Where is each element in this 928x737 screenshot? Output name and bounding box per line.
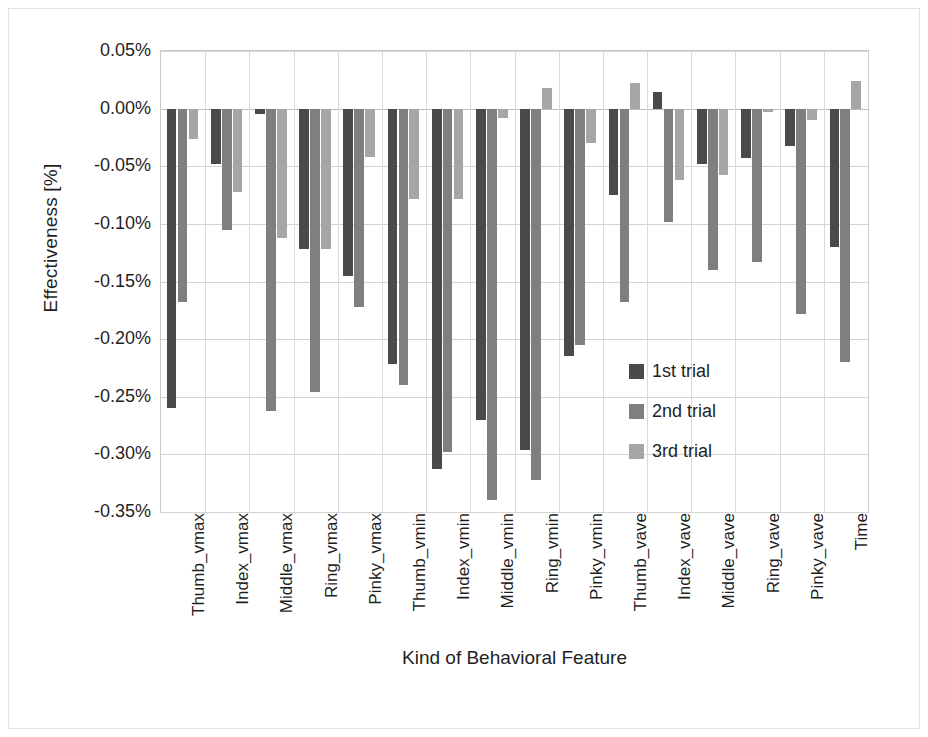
y-axis-tick-labels: 0.05%0.00%-0.05%-0.10%-0.15%-0.20%-0.25%… <box>43 50 151 520</box>
y-axis-tick-label: 0.00% <box>43 99 151 117</box>
bar <box>321 109 331 250</box>
x-axis-title: Kind of Behavioral Feature <box>160 647 869 669</box>
bar <box>609 109 619 195</box>
legend-item: 2nd trial <box>629 391 799 431</box>
bar <box>233 109 243 192</box>
bar <box>586 109 596 144</box>
legend-swatch-icon <box>629 364 644 379</box>
legend-item: 3rd trial <box>629 431 799 471</box>
legend-label: 3rd trial <box>652 441 712 462</box>
bar <box>830 109 840 247</box>
bar <box>664 109 674 222</box>
x-axis-tick-label: Pinky_vave <box>809 513 826 643</box>
legend-label: 2nd trial <box>652 401 716 422</box>
bar <box>211 109 221 164</box>
bar <box>343 109 353 276</box>
bar <box>167 109 177 409</box>
x-axis-tick-label: Ring_vave <box>765 513 782 643</box>
x-axis-tick-label: Time <box>853 513 870 643</box>
bar <box>675 109 685 180</box>
bar <box>255 109 265 115</box>
chart-legend: 1st trial2nd trial3rd trial <box>629 351 799 471</box>
bar <box>564 109 574 357</box>
bar <box>365 109 375 157</box>
y-axis-tick-label: -0.15% <box>43 272 151 290</box>
bar <box>487 109 497 501</box>
y-axis-tick-label: 0.05% <box>43 41 151 59</box>
legend-swatch-icon <box>629 444 644 459</box>
x-axis-tick-label: Middle_vmax <box>278 513 295 643</box>
x-axis-tick-label: Middle_vmin <box>499 513 516 643</box>
bar <box>409 109 419 199</box>
bar <box>697 109 707 164</box>
plot-area: 1st trial2nd trial3rd trial <box>160 50 869 513</box>
bar <box>531 109 541 480</box>
y-axis-tick-label: -0.20% <box>43 329 151 347</box>
bar <box>399 109 409 386</box>
bar <box>432 109 442 470</box>
bar <box>653 92 663 108</box>
bar <box>388 109 398 365</box>
bar <box>708 109 718 270</box>
bar <box>454 109 464 199</box>
bar <box>741 109 751 159</box>
y-axis-tick-label: -0.25% <box>43 387 151 405</box>
x-axis-tick-label: Index_vmax <box>234 513 251 643</box>
bar <box>498 109 508 118</box>
legend-item: 1st trial <box>629 351 799 391</box>
bar <box>476 109 486 420</box>
bar <box>840 109 850 363</box>
bar <box>178 109 188 303</box>
bar <box>796 109 806 314</box>
legend-swatch-icon <box>629 404 644 419</box>
x-axis-tick-label: Thumb_vave <box>632 513 649 643</box>
x-axis-tick-label: Ring_vmax <box>323 513 340 643</box>
bar <box>354 109 364 307</box>
bar <box>763 109 773 112</box>
bar <box>785 109 795 146</box>
bar <box>266 109 276 411</box>
bar <box>807 109 817 121</box>
x-axis-tick-label: Index_vave <box>676 513 693 643</box>
bar <box>575 109 585 345</box>
legend-label: 1st trial <box>652 361 710 382</box>
y-axis-tick-label: -0.30% <box>43 444 151 462</box>
chart-figure: Effectiveness [%] 0.05%0.00%-0.05%-0.10%… <box>8 8 920 729</box>
bar <box>310 109 320 393</box>
bar <box>752 109 762 262</box>
x-axis-tick-label: Thumb_vmax <box>190 513 207 643</box>
x-axis-tick-label: Ring_vmin <box>544 513 561 643</box>
bar <box>851 81 861 109</box>
bar <box>189 109 199 139</box>
bar <box>443 109 453 452</box>
x-axis-tick-label: Pinky_vmax <box>367 513 384 643</box>
bar <box>520 109 530 450</box>
x-axis-tick-label: Thumb_vmin <box>411 513 428 643</box>
x-axis-tick-label: Index_vmin <box>455 513 472 643</box>
bar <box>222 109 232 230</box>
y-axis-tick-label: -0.05% <box>43 156 151 174</box>
bar <box>542 88 552 109</box>
bar <box>630 83 640 108</box>
y-axis-tick-label: -0.35% <box>43 502 151 520</box>
bar <box>719 109 729 176</box>
y-axis-tick-label: -0.10% <box>43 214 151 232</box>
x-axis-tick-label: Middle_vave <box>720 513 737 643</box>
x-axis-tick-labels: Thumb_vmaxIndex_vmaxMiddle_vmaxRing_vmax… <box>160 513 869 643</box>
x-axis-tick-label: Pinky_vmin <box>588 513 605 643</box>
bar <box>299 109 309 250</box>
bar <box>620 109 630 303</box>
bar <box>277 109 287 238</box>
